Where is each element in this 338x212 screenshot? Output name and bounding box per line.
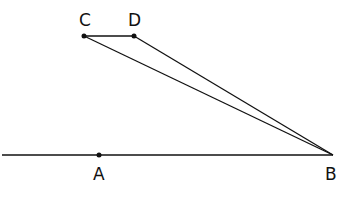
segment-cb <box>84 36 333 155</box>
geometry-diagram: C D A B <box>0 0 338 212</box>
segment-db <box>134 36 333 155</box>
label-a: A <box>93 164 105 184</box>
point-d <box>132 34 137 39</box>
point-a <box>97 153 102 158</box>
label-b: B <box>325 164 337 184</box>
label-d: D <box>128 10 141 30</box>
label-c: C <box>79 10 91 30</box>
point-c <box>82 34 87 39</box>
